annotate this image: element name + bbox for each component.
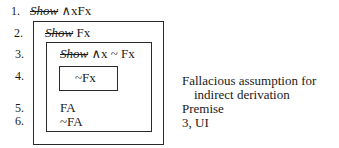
line-1-formula: Show ∧xFx [30, 4, 91, 18]
formula: ∧x ~ Fx [88, 46, 135, 61]
show-keyword: Show [60, 46, 88, 61]
line-4-justification: Fallacious assumption for [182, 74, 316, 88]
line-number-4: 4. [15, 69, 24, 83]
line-6-justification: 3, UI [182, 116, 209, 130]
line-number-3: 3. [15, 47, 24, 61]
line-6-formula: ~FA [60, 115, 83, 129]
line-number-2: 2. [14, 26, 23, 40]
line-4-justification-cont: indirect derivation [194, 88, 290, 102]
show-keyword: Show [45, 25, 73, 40]
formula: Fx [73, 25, 90, 40]
formula: ∧xFx [58, 3, 91, 18]
line-5-formula: FA [60, 101, 76, 115]
show-keyword: Show [30, 3, 58, 18]
line-number-6: 6. [15, 114, 24, 128]
line-2-formula: Show Fx [45, 26, 90, 40]
line-5-justification: Premise [182, 102, 224, 116]
line-number-5: 5. [15, 101, 24, 115]
line-number-1: 1. [11, 4, 20, 18]
line-4-formula: ~Fx [75, 71, 96, 85]
line-3-formula: Show ∧x ~ Fx [60, 47, 135, 61]
